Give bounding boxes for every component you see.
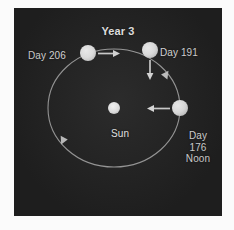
diagram-panel: Year 3 Day 206 Day 191 Day 176 Noon Sun: [14, 8, 222, 216]
sun-label: Sun: [98, 128, 142, 140]
diagram-title: Year 3: [14, 26, 222, 38]
planet-day-176-arrow-head-icon: [147, 105, 154, 112]
planet-day-191-label: Day 191: [160, 47, 198, 59]
planet-day-176-label-line3: Noon: [176, 153, 220, 165]
planet-day-206-arrow-head-icon: [113, 50, 120, 57]
planet-day-206-label: Day 206: [28, 50, 66, 62]
planet-day-176-label: Day 176 Noon: [176, 130, 220, 165]
planet-day-176-body: [172, 100, 188, 116]
planet-day-176-label-line1: Day: [176, 130, 220, 142]
planet-day-191-arrow-head-icon: [147, 73, 154, 80]
diagram-canvas: [14, 8, 222, 216]
planet-day-206-body: [80, 45, 96, 61]
planet-day-191-body: [142, 42, 158, 58]
planet-day-176-label-line2: 176: [176, 142, 220, 154]
orbital-diagram-figure: Year 3 Day 206 Day 191 Day 176 Noon Sun: [0, 0, 234, 230]
sun-body: [108, 102, 120, 114]
